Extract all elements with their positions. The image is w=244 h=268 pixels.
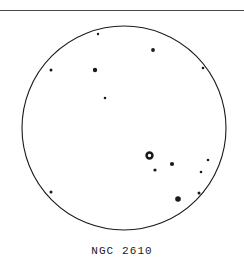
eyepiece-field-container bbox=[0, 0, 244, 244]
figure-caption: NGC 2610 bbox=[0, 245, 244, 257]
star-marker bbox=[151, 48, 155, 52]
star-marker bbox=[202, 67, 205, 70]
star-marker bbox=[153, 168, 156, 171]
star-marker bbox=[198, 192, 201, 195]
star-marker bbox=[175, 196, 181, 202]
eyepiece-field-circle bbox=[22, 26, 226, 230]
star-marker bbox=[97, 33, 99, 35]
star-marker bbox=[104, 97, 107, 100]
star-field-svg bbox=[0, 0, 244, 244]
star-marker bbox=[170, 162, 174, 166]
star-marker bbox=[200, 171, 203, 174]
star-marker bbox=[207, 159, 210, 162]
star-marker bbox=[50, 69, 53, 72]
star-marker bbox=[50, 191, 53, 194]
figure-root: NGC 2610 bbox=[0, 0, 244, 268]
star-marker bbox=[93, 68, 97, 72]
